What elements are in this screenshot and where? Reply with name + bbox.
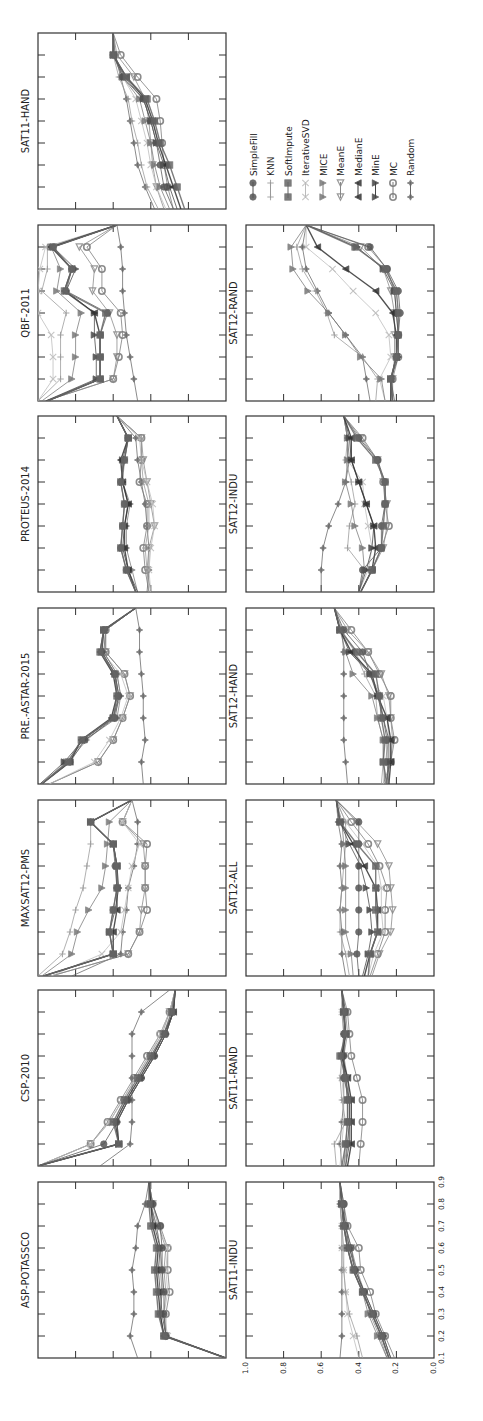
series-line bbox=[306, 225, 398, 401]
data-point bbox=[129, 1267, 135, 1273]
data-point bbox=[110, 52, 116, 58]
data-point bbox=[110, 907, 116, 913]
x-tick-label: 0.2 bbox=[437, 1330, 446, 1342]
series-softimpute bbox=[44, 800, 132, 976]
data-point bbox=[380, 523, 386, 529]
data-point bbox=[112, 671, 118, 677]
series-group bbox=[318, 416, 392, 592]
legend-marker bbox=[250, 180, 256, 186]
data-point bbox=[335, 501, 341, 507]
legend-marker bbox=[407, 180, 413, 186]
data-point bbox=[110, 841, 116, 847]
panel-sat11-rand: SAT11-RAND bbox=[228, 990, 434, 1166]
series-random bbox=[117, 225, 138, 401]
data-point bbox=[299, 266, 305, 272]
data-point bbox=[129, 1053, 135, 1059]
series-softimpute bbox=[146, 1182, 226, 1358]
legend-label: MC bbox=[389, 162, 399, 176]
data-point bbox=[344, 1119, 350, 1125]
data-point bbox=[342, 759, 348, 765]
data-point bbox=[382, 737, 388, 743]
data-point bbox=[378, 545, 384, 551]
panel-pre-astar-2015: PRE.-ASTAR-2015 bbox=[20, 608, 226, 784]
data-point bbox=[134, 1223, 140, 1229]
x-tick-label: 0.8 bbox=[437, 1198, 446, 1210]
data-point bbox=[133, 1245, 139, 1251]
panel-title: SAT11-HAND bbox=[20, 88, 31, 153]
panel-csp-2010: CSP-2010 bbox=[20, 990, 226, 1166]
data-point bbox=[87, 819, 93, 825]
legend-item-mine: MinE bbox=[371, 154, 381, 200]
data-point bbox=[106, 929, 112, 935]
data-point bbox=[134, 140, 140, 146]
data-point bbox=[151, 1267, 157, 1273]
series-line bbox=[306, 225, 398, 401]
data-point bbox=[369, 567, 375, 573]
legend-label: IterativeSVD bbox=[301, 119, 311, 176]
data-point bbox=[102, 310, 108, 316]
data-point bbox=[339, 1333, 345, 1339]
data-point bbox=[382, 501, 388, 507]
legend-label: MICE bbox=[319, 153, 329, 176]
series-line bbox=[340, 1182, 395, 1358]
data-point bbox=[127, 1141, 133, 1147]
y-tick-label: 0.2 bbox=[391, 1362, 400, 1374]
data-point bbox=[146, 1201, 152, 1207]
data-point bbox=[373, 671, 379, 677]
legend-item-mice: MICE bbox=[319, 153, 329, 200]
data-point bbox=[337, 819, 343, 825]
panel-title: SAT11-INDU bbox=[228, 1240, 239, 1301]
x-tick-label: 0.1 bbox=[437, 1352, 446, 1364]
panel-qbf-2011: QBF-2011 bbox=[20, 225, 226, 401]
data-point bbox=[342, 1075, 348, 1081]
data-point bbox=[57, 332, 63, 338]
data-point bbox=[119, 288, 125, 294]
data-point bbox=[65, 759, 71, 765]
panel-title: SAT12-RAND bbox=[228, 281, 239, 345]
data-point bbox=[166, 162, 172, 168]
data-point bbox=[159, 1267, 165, 1273]
x-tick-label: 0.3 bbox=[437, 1308, 446, 1320]
data-point bbox=[119, 523, 125, 529]
data-point bbox=[84, 863, 90, 869]
data-point bbox=[331, 1141, 337, 1147]
data-point bbox=[123, 567, 129, 573]
series-meane bbox=[306, 225, 398, 401]
data-point bbox=[339, 1201, 345, 1207]
data-point bbox=[97, 376, 103, 382]
data-point bbox=[138, 671, 144, 677]
x-tick-label: 0.9 bbox=[437, 1176, 446, 1188]
panel-sat11-hand: SAT11-HAND bbox=[20, 33, 226, 209]
data-point bbox=[350, 1267, 356, 1273]
data-point bbox=[78, 310, 84, 316]
x-tick-label: 0.4 bbox=[437, 1286, 446, 1298]
data-point bbox=[356, 863, 362, 869]
legend-label: MinE bbox=[371, 154, 381, 176]
data-point bbox=[110, 715, 116, 721]
legend-label: KNN bbox=[266, 157, 276, 176]
data-point bbox=[127, 354, 133, 360]
legend-label: SimpleFill bbox=[249, 133, 259, 176]
y-tick-label: 0.8 bbox=[279, 1362, 288, 1374]
data-point bbox=[341, 1009, 347, 1015]
data-point bbox=[337, 627, 343, 633]
data-point bbox=[342, 1141, 348, 1147]
data-point bbox=[157, 162, 163, 168]
series-group bbox=[40, 608, 148, 784]
data-point bbox=[78, 737, 84, 743]
data-point bbox=[140, 715, 146, 721]
data-point bbox=[174, 184, 180, 190]
legend-label: MeanE bbox=[336, 145, 346, 176]
data-point bbox=[341, 715, 347, 721]
series-knn bbox=[294, 225, 381, 401]
data-point bbox=[161, 1333, 167, 1339]
series-line bbox=[291, 225, 385, 401]
y-tick-label: 1.0 bbox=[241, 1362, 250, 1374]
data-point bbox=[373, 907, 379, 913]
data-point bbox=[157, 1223, 163, 1229]
data-point bbox=[114, 693, 120, 699]
legend-item-softimpute: SoftImpute bbox=[284, 126, 294, 200]
data-point bbox=[69, 266, 75, 272]
data-point bbox=[136, 627, 142, 633]
legend-label: SoftImpute bbox=[284, 126, 294, 176]
